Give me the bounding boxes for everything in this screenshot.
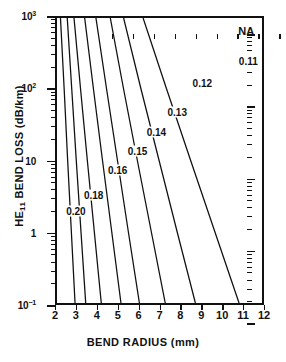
y-axis-title-suffix: BEND LOSS (dB/km) xyxy=(13,85,25,202)
contour-line-0-12 xyxy=(124,18,196,303)
contour-label: 0.14 xyxy=(146,126,167,137)
x-tick-label: 5 xyxy=(115,309,121,321)
y-tick-right xyxy=(247,117,252,118)
contour-label: 0.15 xyxy=(127,146,148,157)
y-axis-title: HE11 BEND LOSS (dB/km) xyxy=(13,36,25,276)
x-tick-label: 10 xyxy=(216,309,228,321)
y-tick-right xyxy=(247,157,252,158)
x-tick-top xyxy=(133,34,134,39)
y-tick-right xyxy=(247,229,252,230)
y-tick-right xyxy=(247,200,252,201)
y-tick-right xyxy=(247,289,252,290)
x-tick-label: 12 xyxy=(258,309,270,321)
y-tick-right xyxy=(247,128,252,129)
y-tick-right xyxy=(247,113,252,114)
contour-curves xyxy=(57,18,262,303)
y-tick-right xyxy=(247,207,252,208)
y-tick-right xyxy=(247,110,252,111)
contour-label: 0.11 xyxy=(238,56,259,67)
x-tick-label: 7 xyxy=(156,309,162,321)
contour-label: 0.13 xyxy=(167,106,188,117)
x-axis-tick-labels: 23456789101112 xyxy=(55,309,264,327)
contour-line-0-18 xyxy=(67,18,85,303)
x-tick-label: 2 xyxy=(52,309,58,321)
y-tick-right xyxy=(247,280,252,281)
y-tick-right xyxy=(247,195,252,196)
y-tick-right xyxy=(247,122,252,123)
y-tick-right xyxy=(247,258,252,259)
y-tick-right xyxy=(247,106,255,108)
y-tick-right xyxy=(247,50,252,51)
y-tick-right xyxy=(247,179,255,181)
y-tick-right xyxy=(247,262,252,263)
x-axis-title: BEND RADIUS (mm) xyxy=(0,336,286,348)
y-tick-label: 10 xyxy=(25,155,36,166)
x-tick-label: 3 xyxy=(73,309,79,321)
y-tick-right xyxy=(247,135,252,136)
x-tick-label: 11 xyxy=(237,309,249,321)
contour-line-0-16 xyxy=(74,18,101,303)
y-tick-right xyxy=(247,216,252,217)
contour-label: 0.16 xyxy=(107,164,128,175)
y-tick xyxy=(47,16,55,18)
y-tick-right xyxy=(247,272,252,273)
x-tick-top xyxy=(279,34,280,39)
y-tick-label: 103 xyxy=(22,10,36,22)
bend-loss-chart: 10−1110102103 23456789101112 BEND RADIUS… xyxy=(0,0,286,362)
x-tick-top xyxy=(217,34,218,39)
contour-line-0-20 xyxy=(60,18,75,303)
contour-label: 0.18 xyxy=(83,190,104,201)
y-tick-right xyxy=(247,186,252,187)
y-tick xyxy=(47,305,55,307)
y-tick-right xyxy=(247,182,252,183)
x-tick-top xyxy=(112,34,113,39)
y-tick xyxy=(47,88,55,90)
y-axis-title-prefix: HE xyxy=(13,211,25,227)
y-tick-label: 10−1 xyxy=(18,299,36,311)
y-tick xyxy=(47,233,55,235)
legend-title-na: NA xyxy=(238,25,254,37)
y-tick-right xyxy=(247,72,252,73)
x-tick-top xyxy=(196,34,197,39)
contour-label: 0.20 xyxy=(65,206,86,217)
x-tick-top xyxy=(258,34,259,39)
x-tick-label: 8 xyxy=(177,309,183,321)
y-tick-right xyxy=(247,85,252,86)
plot-area xyxy=(55,16,264,305)
x-tick-label: 9 xyxy=(198,309,204,321)
y-tick-right xyxy=(247,45,252,46)
y-tick-right xyxy=(247,301,252,302)
y-axis-ticks xyxy=(40,16,55,305)
y-tick-right xyxy=(247,267,252,268)
y-tick xyxy=(47,161,55,163)
x-tick-top xyxy=(154,34,155,39)
y-tick-label: 1 xyxy=(31,227,36,238)
y-axis-title-subscript: 11 xyxy=(18,202,27,211)
x-axis-ticks-top xyxy=(112,34,286,44)
x-tick-label: 4 xyxy=(94,309,100,321)
y-tick-right xyxy=(247,254,252,255)
contour-label: 0.12 xyxy=(192,77,213,88)
y-tick-right xyxy=(247,190,252,191)
y-axis-ticks-right xyxy=(247,34,262,323)
x-tick-top xyxy=(175,34,176,39)
x-tick-label: 6 xyxy=(136,309,142,321)
y-tick-right xyxy=(247,251,255,253)
y-tick-right xyxy=(247,144,252,145)
